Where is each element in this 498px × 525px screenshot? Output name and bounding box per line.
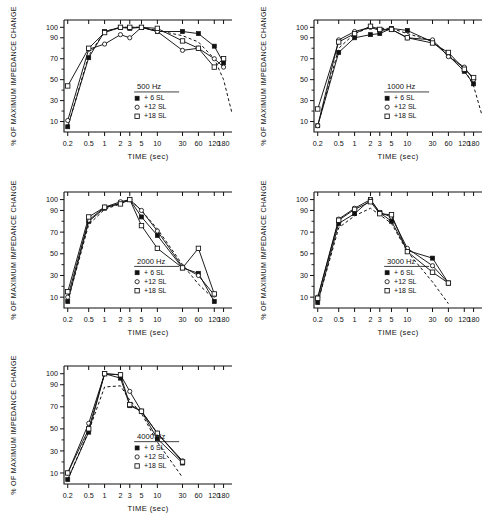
series-line <box>318 200 449 303</box>
x-tick-label: 30 <box>179 315 187 324</box>
marker-filled-square <box>316 301 320 305</box>
legend-entry-label: + 6 SL <box>144 444 165 451</box>
marker-open-square <box>196 46 200 50</box>
marker-open-circle <box>316 124 320 128</box>
y-tick-label: 50 <box>50 249 58 258</box>
marker-filled-square <box>66 299 70 303</box>
series-line <box>68 27 224 86</box>
x-tick-label: 5 <box>139 491 143 500</box>
marker-open-square <box>212 65 216 69</box>
marker-open-circle <box>196 273 200 277</box>
legend-entry-label: +12 SL <box>144 453 166 460</box>
marker-open-square <box>87 46 91 50</box>
legend-entry-label: + 6 SL <box>394 269 415 276</box>
legend-entry-label: +18 SL <box>394 287 416 294</box>
data-series <box>66 197 217 299</box>
x-tick-label: 1 <box>103 491 107 500</box>
x-tick-label: 0.2 <box>63 139 73 148</box>
marker-open-square <box>155 26 159 30</box>
marker-filled-square <box>353 36 357 40</box>
marker-filled-square <box>385 271 389 275</box>
marker-filled-square <box>155 233 159 237</box>
marker-open-circle <box>128 36 132 40</box>
marker-open-square <box>316 107 320 111</box>
x-tick-label: 0.5 <box>84 491 94 500</box>
marker-open-square <box>128 25 132 29</box>
x-tick-label: 3 <box>128 315 132 324</box>
y-tick-label: 50 <box>300 249 308 258</box>
marker-open-square <box>102 205 106 209</box>
marker-filled-square <box>196 32 200 36</box>
y-tick-label: 100 <box>296 23 308 32</box>
y-tick-label: 30 <box>50 96 58 105</box>
chart-panel-3000hz: 0.20.512351030601201801030507090100TIME … <box>252 176 496 346</box>
marker-open-square <box>471 75 475 79</box>
y-axis-label: % OF MAXIMUM IMPEDANCE CHANGE <box>260 180 268 320</box>
marker-open-square <box>118 25 122 29</box>
x-tick-label: 30 <box>179 491 187 500</box>
marker-filled-square <box>87 56 91 60</box>
y-tick-label: 90 <box>50 380 58 389</box>
x-tick-label: 60 <box>444 139 452 148</box>
marker-open-square <box>102 30 106 34</box>
chart-panel-4000hz: 0.20.512351030601201801030507090100TIME … <box>2 350 246 522</box>
marker-open-square <box>128 402 132 406</box>
marker-open-square <box>385 289 389 293</box>
marker-open-square <box>337 218 341 222</box>
legend-entry-label: +12 SL <box>394 278 416 285</box>
marker-filled-square <box>66 478 70 482</box>
y-tick-label: 10 <box>50 117 58 126</box>
y-tick-label: 90 <box>300 206 308 215</box>
marker-filled-square <box>431 256 435 260</box>
x-tick-label: 0.2 <box>313 315 323 324</box>
marker-open-circle <box>155 229 159 233</box>
marker-open-square <box>446 50 450 54</box>
data-series <box>66 198 217 304</box>
x-tick-label: 3 <box>128 139 132 148</box>
marker-open-circle <box>128 389 132 393</box>
y-axis-label: % OF MAXIMUM IMPEDANCE CHANGE <box>260 6 268 146</box>
x-tick-label: 5 <box>139 139 143 148</box>
marker-open-circle <box>221 65 225 69</box>
x-tick-label: 10 <box>403 139 411 148</box>
marker-filled-square <box>337 50 341 54</box>
y-axis-ticks: 1030507090100 <box>46 369 64 477</box>
y-tick-label: 50 <box>50 75 58 84</box>
x-tick-label: 10 <box>153 139 161 148</box>
x-tick-label: 0.2 <box>63 491 73 500</box>
x-tick-label: 60 <box>194 315 202 324</box>
y-tick-label: 100 <box>46 369 58 378</box>
x-tick-label: 1 <box>103 139 107 148</box>
legend-entry-label: +12 SL <box>394 103 416 110</box>
marker-open-circle <box>385 105 389 109</box>
marker-filled-square <box>405 28 409 32</box>
marker-open-circle <box>139 208 143 212</box>
y-tick-label: 10 <box>50 293 58 302</box>
x-tick-label: 180 <box>468 139 480 148</box>
x-tick-label: 180 <box>218 139 230 148</box>
y-tick-label: 90 <box>50 33 58 42</box>
marker-filled-square <box>368 33 372 37</box>
y-tick-label: 50 <box>300 75 308 84</box>
series-line <box>68 200 215 294</box>
marker-filled-square <box>181 30 185 34</box>
legend-title: 1000 Hz <box>387 82 415 91</box>
marker-open-square <box>118 202 122 206</box>
y-axis-label: % OF MAXIMUM IMPEDANCE CHANGE <box>10 6 18 146</box>
x-tick-label: 60 <box>194 491 202 500</box>
marker-open-square <box>135 114 139 118</box>
x-axis-label: TIME (sec) <box>127 328 168 337</box>
y-tick-label: 100 <box>46 23 58 32</box>
marker-open-square <box>368 24 372 28</box>
x-tick-label: 180 <box>218 491 230 500</box>
marker-filled-square <box>139 215 143 219</box>
marker-open-circle <box>180 48 184 52</box>
x-axis-label: TIME (sec) <box>377 152 418 161</box>
marker-open-square <box>180 39 184 43</box>
y-tick-label: 70 <box>50 402 58 411</box>
marker-open-square <box>102 372 106 376</box>
x-tick-label: 0.5 <box>334 315 344 324</box>
x-tick-label: 5 <box>389 139 393 148</box>
chart-panel-1000hz: 0.20.512351030601201801030507090100TIME … <box>252 4 496 170</box>
marker-filled-square <box>472 82 476 86</box>
